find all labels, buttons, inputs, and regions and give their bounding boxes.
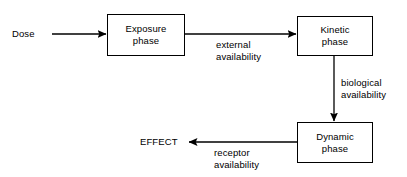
node-dynamic-phase[interactable]: Dynamic phase [297,122,373,163]
node-kinetic-phase[interactable]: Kinetic phase [297,16,373,56]
edge-label-biological-availability-line1: biological [341,77,386,89]
node-exposure-phase[interactable]: Exposure phase [107,14,185,56]
edge-label-receptor-availability: receptor availability [214,147,259,170]
node-kinetic-phase-line2: phase [322,36,348,48]
node-dynamic-phase-line2: phase [322,143,348,155]
node-dynamic-phase-line1: Dynamic [316,131,354,143]
node-exposure-phase-line2: phase [133,35,159,47]
edge-label-external-availability: external availability [216,39,261,62]
edge-label-external-availability-line2: availability [216,51,261,63]
edge-label-biological-availability-line2: availability [341,89,386,101]
terminal-label-effect: EFFECT [140,136,178,148]
edge-label-biological-availability: biological availability [341,77,386,100]
edge-label-external-availability-line1: external [216,39,261,51]
terminal-label-dose: Dose [12,28,35,40]
edge-label-receptor-availability-line1: receptor [214,147,259,159]
flow-diagram: Dose EFFECT Exposure phase Kinetic phase… [0,0,407,177]
node-kinetic-phase-line1: Kinetic [320,24,349,36]
edge-label-receptor-availability-line2: availability [214,159,259,171]
node-exposure-phase-line1: Exposure [126,23,167,35]
